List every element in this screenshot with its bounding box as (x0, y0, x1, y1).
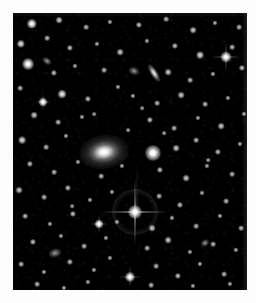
top-edge-light-leak (13, 13, 247, 17)
field-star (190, 27, 197, 34)
field-star (22, 58, 34, 70)
field-star (41, 194, 47, 200)
field-star (154, 100, 160, 106)
field-star (193, 223, 199, 229)
field-star (18, 136, 26, 144)
field-star (16, 187, 23, 194)
field-star (238, 225, 244, 231)
field-star (58, 90, 67, 99)
field-star (44, 35, 50, 41)
bright-field-star (221, 52, 232, 63)
bright-field-star (125, 272, 135, 282)
field-star (236, 24, 242, 30)
field-star (173, 145, 180, 152)
field-star (144, 245, 150, 251)
field-star (196, 51, 204, 59)
bright-field-star (95, 220, 104, 229)
field-star (171, 125, 177, 131)
sky-field (13, 13, 247, 290)
photographic-grain-overlay (13, 13, 247, 290)
field-star (56, 17, 63, 24)
field-star (153, 263, 159, 269)
field-star (218, 123, 225, 130)
field-star (83, 24, 89, 30)
bright-field-star (39, 98, 48, 107)
field-star (117, 49, 124, 56)
field-star (210, 241, 216, 247)
field-star (126, 128, 131, 133)
field-star (17, 85, 23, 91)
field-star (162, 131, 167, 136)
field-star (183, 175, 190, 182)
field-star (163, 16, 169, 22)
field-star (101, 67, 107, 73)
field-star (148, 282, 154, 288)
field-star (51, 169, 57, 175)
field-star (18, 261, 24, 267)
foreground-star-with-spikes (128, 205, 142, 219)
field-star (165, 237, 172, 244)
field-star (31, 112, 38, 119)
field-star (223, 198, 229, 204)
field-star (98, 173, 104, 179)
field-star (34, 281, 40, 287)
field-star (70, 204, 75, 209)
right-edge-light-leak (242, 13, 247, 290)
astronomy-image-page (0, 0, 256, 303)
field-star (43, 144, 49, 150)
field-star (22, 213, 28, 219)
field-star (229, 44, 235, 50)
field-star (92, 112, 97, 117)
field-star (140, 106, 145, 111)
field-star (165, 69, 172, 76)
field-star (229, 171, 235, 177)
field-star (221, 271, 227, 277)
field-star (61, 285, 66, 290)
field-star (156, 193, 162, 199)
field-star (178, 92, 185, 99)
field-star (202, 101, 208, 107)
companion-object (145, 145, 161, 161)
field-star (187, 77, 193, 83)
field-star (206, 158, 211, 163)
field-star (193, 137, 199, 143)
field-star (81, 243, 87, 249)
field-star (55, 119, 61, 125)
